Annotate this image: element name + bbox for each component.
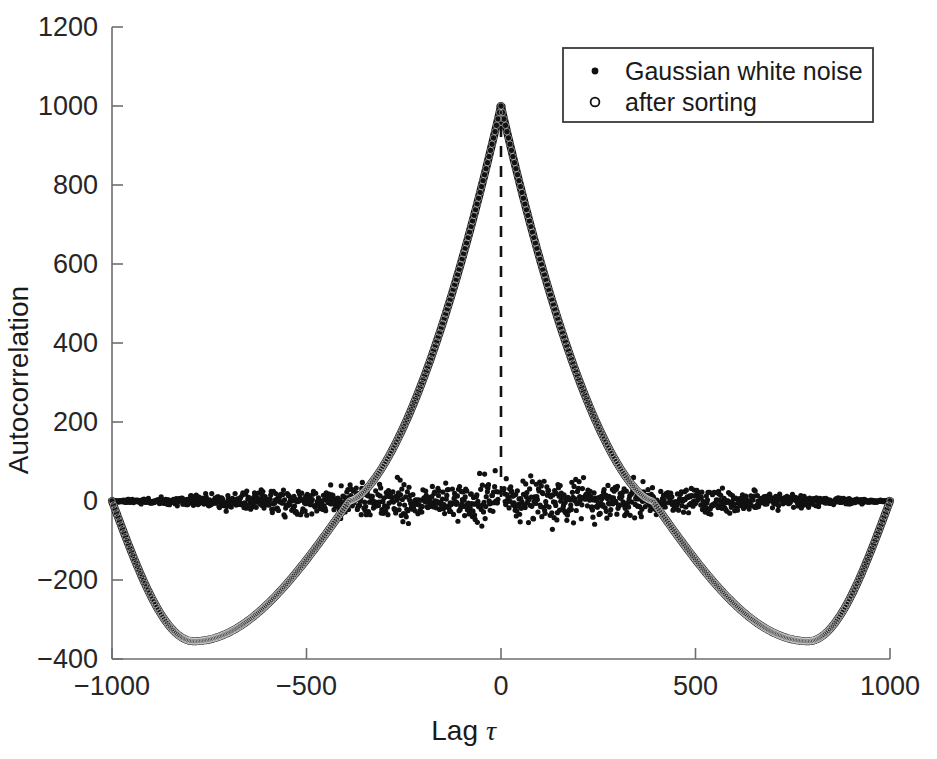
noise-data-point	[508, 484, 513, 489]
noise-data-point	[568, 502, 573, 507]
noise-data-point	[608, 512, 613, 517]
noise-data-point	[492, 484, 497, 489]
noise-data-point	[401, 482, 406, 487]
y-tick-label: −200	[37, 565, 98, 595]
noise-data-point	[281, 487, 286, 492]
noise-data-point	[400, 519, 405, 524]
x-axis-ticks: −1000−50005001000	[74, 648, 920, 701]
noise-data-point	[310, 497, 315, 502]
noise-data-point	[378, 485, 383, 490]
noise-data-point	[410, 492, 415, 497]
noise-data-point	[616, 503, 621, 508]
noise-data-point	[669, 494, 674, 499]
noise-data-point	[292, 504, 297, 509]
noise-data-point	[359, 512, 364, 517]
noise-data-point	[523, 481, 528, 486]
legend-marker-filled-dot-icon	[592, 68, 599, 75]
noise-data-point	[590, 507, 595, 512]
noise-data-point	[482, 471, 487, 476]
noise-data-point	[283, 514, 288, 519]
noise-data-point	[535, 509, 540, 514]
noise-data-point	[791, 505, 796, 510]
noise-data-point	[541, 479, 546, 484]
noise-data-point	[753, 489, 758, 494]
noise-data-point	[528, 473, 533, 478]
legend-label-after-sorting: after sorting	[625, 88, 757, 116]
noise-data-point	[686, 510, 691, 515]
noise-data-point	[699, 490, 704, 495]
noise-data-point	[526, 520, 531, 525]
noise-data-point	[598, 511, 603, 516]
noise-data-point	[539, 483, 544, 488]
noise-data-point	[419, 509, 424, 514]
noise-data-point	[385, 512, 390, 517]
noise-data-point	[626, 505, 631, 510]
noise-data-point	[495, 497, 500, 502]
noise-data-point	[406, 485, 411, 490]
noise-data-point	[632, 515, 637, 520]
noise-data-point	[650, 485, 655, 490]
noise-data-point	[581, 475, 586, 480]
noise-data-point	[360, 480, 365, 485]
noise-data-point	[569, 507, 574, 512]
noise-data-point	[546, 505, 551, 510]
noise-data-point	[570, 490, 575, 495]
noise-data-point	[645, 487, 650, 492]
noise-data-point	[420, 504, 425, 509]
x-tick-label: 0	[493, 671, 508, 701]
noise-data-point	[304, 513, 309, 518]
y-tick-label: 200	[53, 407, 98, 437]
legend-label-gaussian-white-noise: Gaussian white noise	[625, 57, 863, 85]
noise-data-point	[576, 479, 581, 484]
noise-data-point	[398, 477, 403, 482]
noise-data-point	[462, 513, 467, 518]
noise-data-point	[518, 519, 523, 524]
noise-data-point	[282, 497, 287, 502]
noise-data-point	[504, 476, 509, 481]
noise-data-point	[309, 511, 314, 516]
noise-data-point	[443, 481, 448, 486]
noise-data-point	[276, 508, 281, 513]
noise-data-point	[527, 486, 532, 491]
autocorrelation-figure: −400−200020040060080010001200 −1000−5000…	[0, 0, 937, 759]
y-axis-ticks: −400−200020040060080010001200	[37, 12, 123, 674]
noise-data-point	[313, 491, 318, 496]
noise-data-point	[640, 479, 645, 484]
noise-data-point	[486, 482, 491, 487]
noise-data-point	[493, 468, 498, 473]
noise-data-point	[735, 508, 740, 513]
noise-data-point	[436, 493, 441, 498]
noise-data-point	[397, 502, 402, 507]
noise-data-point	[406, 521, 411, 526]
noise-data-point	[479, 523, 484, 528]
noise-data-point	[396, 507, 401, 512]
y-tick-label: 1200	[38, 12, 98, 42]
noise-data-point	[483, 516, 488, 521]
noise-data-point	[323, 508, 328, 513]
y-tick-label: 800	[53, 170, 98, 200]
noise-data-point	[775, 508, 780, 513]
y-axis-title: Autocorrelation	[3, 286, 34, 474]
noise-data-point	[299, 491, 304, 496]
x-tick-label: −500	[276, 671, 337, 701]
plot-series-group	[109, 103, 893, 645]
noise-data-point	[531, 516, 536, 521]
noise-data-point	[430, 484, 435, 489]
y-tick-label: −400	[37, 644, 98, 674]
noise-data-point	[708, 512, 713, 517]
noise-data-point	[224, 509, 229, 514]
noise-data-point	[280, 492, 285, 497]
noise-data-point	[535, 497, 540, 502]
noise-data-point	[455, 493, 460, 498]
noise-data-point	[591, 490, 596, 495]
noise-data-point	[592, 522, 597, 527]
noise-data-point	[354, 485, 359, 490]
noise-data-point	[590, 515, 595, 520]
noise-data-point	[554, 517, 559, 522]
noise-data-point	[727, 511, 732, 516]
noise-data-point	[558, 483, 563, 488]
noise-data-point	[209, 491, 214, 496]
legend[interactable]: Gaussian white noise after sorting	[563, 48, 873, 122]
noise-data-point	[477, 471, 482, 476]
noise-data-point	[523, 505, 528, 510]
